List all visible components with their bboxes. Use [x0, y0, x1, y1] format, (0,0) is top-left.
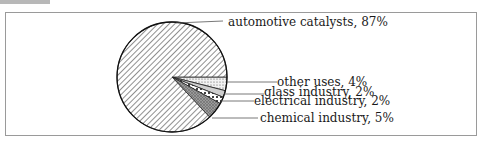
label-automotive-catalysts: automotive catalysts, 87%	[228, 16, 388, 28]
label-electrical-industry: electrical industry, 2%	[254, 95, 390, 107]
label-chemical-industry: chemical industry, 5%	[260, 112, 394, 124]
